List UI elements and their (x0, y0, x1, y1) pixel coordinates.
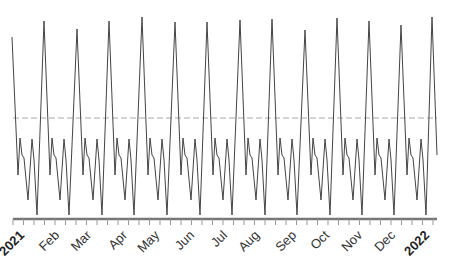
x-tick-label-oct: Oct (307, 227, 332, 252)
x-tick-label-nov: Nov (338, 227, 365, 254)
x-tick-label-feb: Feb (36, 228, 62, 254)
x-tick-label-jun: Jun (172, 228, 197, 253)
x-axis (13, 219, 437, 225)
x-tick-label-2021: 2021 (0, 228, 27, 259)
x-tick-label-sep: Sep (272, 228, 299, 255)
x-tick-label-dec: Dec (371, 227, 398, 254)
line-chart: 2021FebMarAprMayJunJulAugSepOctNovDec202… (0, 0, 455, 273)
x-tick-label-aug: Aug (235, 228, 262, 255)
series-line (12, 17, 437, 215)
x-tick-label-mar: Mar (68, 227, 95, 254)
x-tick-label-jul: Jul (208, 227, 230, 249)
data-series-line (12, 17, 437, 215)
x-tick-label-2022: 2022 (401, 228, 432, 259)
x-axis-labels: 2021FebMarAprMayJunJulAugSepOctNovDec202… (0, 227, 432, 259)
x-tick-label-apr: Apr (105, 227, 130, 252)
x-tick-label-may: May (134, 227, 162, 255)
